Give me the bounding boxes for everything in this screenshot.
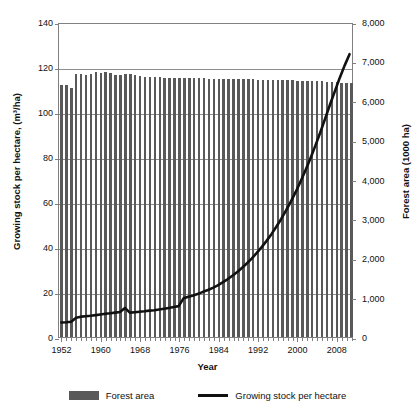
x-axis-minor-tickmark bbox=[194, 337, 195, 341]
y-axis-left-tickmark bbox=[55, 294, 59, 295]
x-axis-minor-tickmark bbox=[91, 337, 92, 341]
y-axis-left-tick-label: 0 bbox=[13, 333, 53, 343]
x-axis-tick-label: 2000 bbox=[277, 345, 317, 355]
legend-label-growing-stock: Growing stock per hectare bbox=[235, 390, 346, 401]
x-axis-minor-tickmark bbox=[150, 337, 151, 341]
legend-item-forest-area: Forest area bbox=[69, 390, 155, 401]
x-axis-major-tickmark bbox=[219, 337, 220, 342]
y-axis-left-tickmark bbox=[55, 339, 59, 340]
x-axis-minor-tickmark bbox=[106, 337, 107, 341]
x-axis-minor-tickmark bbox=[189, 337, 190, 341]
chart-legend: Forest area Growing stock per hectare bbox=[0, 386, 415, 404]
x-axis-minor-tickmark bbox=[268, 337, 269, 341]
x-axis-minor-tickmark bbox=[253, 337, 254, 341]
y-axis-left-tickmark bbox=[55, 249, 59, 250]
y-axis-right-tickmark bbox=[352, 181, 356, 182]
y-axis-right-tick-label: 8,000 bbox=[362, 18, 404, 28]
y-axis-right-tickmark bbox=[352, 102, 356, 103]
x-axis-minor-tickmark bbox=[352, 337, 353, 341]
x-axis-minor-tickmark bbox=[312, 337, 313, 341]
x-axis-minor-tickmark bbox=[160, 337, 161, 341]
x-axis-major-tickmark bbox=[297, 337, 298, 342]
x-axis-minor-tickmark bbox=[81, 337, 82, 341]
y-axis-left-tickmark bbox=[55, 204, 59, 205]
x-axis-major-tickmark bbox=[140, 337, 141, 342]
line-series-growing-stock bbox=[59, 24, 352, 337]
y-axis-left-title: Growing stock per hectare, (m³/ha) bbox=[11, 72, 22, 272]
x-axis-minor-tickmark bbox=[273, 337, 274, 341]
x-axis-minor-tickmark bbox=[111, 337, 112, 341]
x-axis-major-tickmark bbox=[258, 337, 259, 342]
x-axis-minor-tickmark bbox=[327, 337, 328, 341]
x-axis-minor-tickmark bbox=[76, 337, 77, 341]
x-axis-minor-tickmark bbox=[175, 337, 176, 341]
chart-container: Growing stock per hectare, (m³/ha) Fores… bbox=[0, 0, 415, 415]
x-axis-major-tickmark bbox=[101, 337, 102, 342]
x-axis-minor-tickmark bbox=[347, 337, 348, 341]
x-axis-tick-label: 1976 bbox=[159, 345, 199, 355]
y-axis-left-tick-label: 80 bbox=[13, 153, 53, 163]
plot-area: 020406080100120140 01,0002,0003,0004,000… bbox=[58, 23, 353, 338]
growing-stock-line bbox=[61, 54, 349, 322]
y-axis-right-tickmark bbox=[352, 220, 356, 221]
legend-label-forest-area: Forest area bbox=[106, 390, 155, 401]
x-axis-minor-tickmark bbox=[243, 337, 244, 341]
x-axis-tick-label: 1960 bbox=[81, 345, 121, 355]
y-axis-right-tickmark bbox=[352, 339, 356, 340]
y-axis-right-tick-label: 2,000 bbox=[362, 254, 404, 264]
x-axis-minor-tickmark bbox=[229, 337, 230, 341]
x-axis-minor-tickmark bbox=[238, 337, 239, 341]
x-axis-minor-tickmark bbox=[204, 337, 205, 341]
y-axis-right-tick-label: 0 bbox=[362, 333, 404, 343]
y-axis-right-tick-label: 3,000 bbox=[362, 215, 404, 225]
x-axis-minor-tickmark bbox=[234, 337, 235, 341]
x-axis-minor-tickmark bbox=[130, 337, 131, 341]
y-axis-right-tick-label: 5,000 bbox=[362, 136, 404, 146]
x-axis-tick-label: 1984 bbox=[199, 345, 239, 355]
y-axis-left-tick-label: 140 bbox=[13, 18, 53, 28]
x-axis-minor-tickmark bbox=[224, 337, 225, 341]
y-axis-left-tick-label: 20 bbox=[13, 288, 53, 298]
x-axis-minor-tickmark bbox=[71, 337, 72, 341]
x-axis-minor-tickmark bbox=[307, 337, 308, 341]
x-axis-minor-tickmark bbox=[293, 337, 294, 341]
y-axis-right-tick-label: 6,000 bbox=[362, 97, 404, 107]
x-axis-title-text: Year bbox=[197, 361, 217, 372]
y-axis-right-tick-label: 4,000 bbox=[362, 176, 404, 186]
x-axis-minor-tickmark bbox=[165, 337, 166, 341]
x-axis-minor-tickmark bbox=[96, 337, 97, 341]
x-axis-tick-label: 1952 bbox=[41, 345, 81, 355]
legend-item-growing-stock: Growing stock per hectare bbox=[198, 390, 346, 401]
x-axis-minor-tickmark bbox=[283, 337, 284, 341]
x-axis-minor-tickmark bbox=[248, 337, 249, 341]
y-axis-left-tickmark bbox=[55, 69, 59, 70]
x-axis-minor-tickmark bbox=[302, 337, 303, 341]
y-axis-right-tickmark bbox=[352, 260, 356, 261]
y-axis-right-tickmark bbox=[352, 142, 356, 143]
x-axis-minor-tickmark bbox=[214, 337, 215, 341]
x-axis-tick-label: 1992 bbox=[238, 345, 278, 355]
y-axis-left-tickmark bbox=[55, 159, 59, 160]
x-axis-minor-tickmark bbox=[125, 337, 126, 341]
x-axis-minor-tickmark bbox=[116, 337, 117, 341]
y-axis-left-tick-label: 120 bbox=[13, 63, 53, 73]
x-axis-minor-tickmark bbox=[209, 337, 210, 341]
x-axis-minor-tickmark bbox=[145, 337, 146, 341]
x-axis-minor-tickmark bbox=[288, 337, 289, 341]
line-swatch-icon bbox=[198, 394, 228, 397]
x-axis-title: Year bbox=[0, 361, 415, 372]
x-axis-minor-tickmark bbox=[135, 337, 136, 341]
x-axis-minor-tickmark bbox=[263, 337, 264, 341]
x-axis-minor-tickmark bbox=[86, 337, 87, 341]
x-axis-tick-label: 2008 bbox=[317, 345, 357, 355]
x-axis-minor-tickmark bbox=[170, 337, 171, 341]
x-axis-minor-tickmark bbox=[278, 337, 279, 341]
y-axis-right-tickmark bbox=[352, 63, 356, 64]
x-axis-major-tickmark bbox=[179, 337, 180, 342]
y-axis-left-tick-label: 40 bbox=[13, 243, 53, 253]
y-axis-right-tickmark bbox=[352, 299, 356, 300]
x-axis-minor-tickmark bbox=[317, 337, 318, 341]
x-axis-major-tickmark bbox=[337, 337, 338, 342]
y-axis-right-tickmark bbox=[352, 24, 356, 25]
y-axis-left-tick-label: 100 bbox=[13, 108, 53, 118]
